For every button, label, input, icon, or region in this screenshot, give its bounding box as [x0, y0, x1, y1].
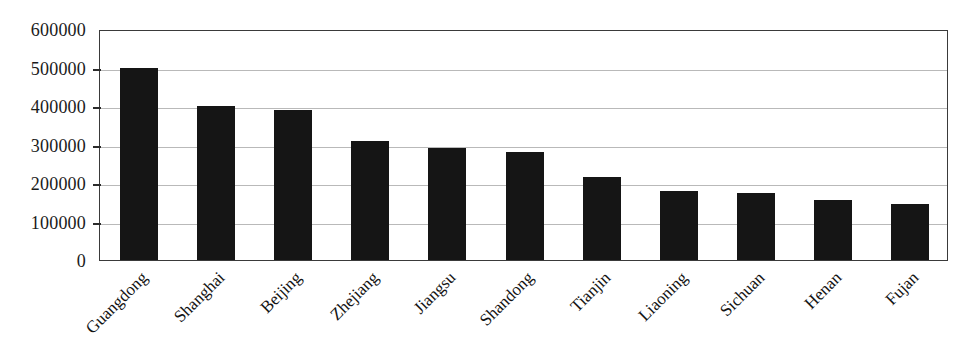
bar	[120, 68, 158, 261]
y-tick-label: 400000	[0, 98, 86, 116]
bar	[583, 177, 621, 260]
y-tick-label: 500000	[0, 60, 86, 78]
bar	[428, 148, 466, 260]
y-tick-label: 600000	[0, 21, 86, 39]
bar	[660, 191, 698, 260]
bar-chart: 6000005000004000003000002000001000000 Gu…	[0, 0, 972, 356]
bar	[274, 110, 312, 260]
bars-container	[100, 31, 947, 260]
bar	[891, 204, 929, 260]
y-tick-label: 100000	[0, 214, 86, 232]
bar	[351, 141, 389, 260]
y-tick-label: 300000	[0, 137, 86, 155]
bar	[814, 200, 852, 260]
y-tick-label: 0	[0, 252, 86, 270]
bar	[737, 193, 775, 260]
y-tick-label: 200000	[0, 175, 86, 193]
bar	[506, 152, 544, 260]
y-axis: 6000005000004000003000002000001000000	[0, 0, 86, 356]
bar	[197, 106, 235, 260]
plot-area	[99, 30, 948, 261]
